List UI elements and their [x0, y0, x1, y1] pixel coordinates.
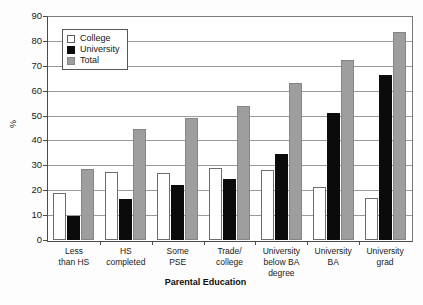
x-tick-label-line: completed — [100, 257, 152, 268]
bar-university — [67, 216, 80, 240]
x-tick-label-line: than HS — [48, 257, 100, 268]
legend-swatch-college — [67, 35, 75, 43]
x-tick-label: Lessthan HS — [48, 246, 100, 279]
x-tick-label-line: Trade/ — [204, 246, 256, 257]
x-tick-label-line: HS — [100, 246, 152, 257]
bar-group — [204, 17, 256, 240]
bar-university — [223, 179, 236, 240]
x-tick-label-line: University — [255, 246, 307, 257]
bar-college — [261, 170, 274, 240]
legend-item: University — [67, 44, 120, 55]
y-tick-label: 90 — [8, 11, 42, 21]
bar-total — [81, 169, 94, 240]
legend-label: College — [80, 33, 111, 44]
x-axis-title: Parental Education — [0, 277, 411, 287]
bar-total — [237, 106, 250, 240]
bar-group — [152, 17, 204, 240]
x-tick-label: Trade/college — [204, 246, 256, 279]
bar-total — [393, 32, 406, 240]
bar-college — [365, 198, 378, 240]
bar-total — [133, 129, 146, 240]
bar-university — [327, 113, 340, 240]
x-tick-mark — [152, 241, 153, 245]
x-tick-label: Universitybelow BA degree — [255, 246, 307, 279]
chart-legend: CollegeUniversityTotal — [62, 29, 128, 70]
y-tick-label: 70 — [8, 61, 42, 71]
bar-university — [379, 75, 392, 241]
legend-item: College — [67, 33, 120, 44]
x-tick-mark — [100, 241, 101, 245]
bar-university — [275, 154, 288, 240]
bar-group — [255, 17, 307, 240]
bar-group — [307, 17, 359, 240]
bar-total — [289, 83, 302, 240]
x-tick-label-line: University — [307, 246, 359, 257]
x-tick-label-line: BA — [307, 257, 359, 268]
bar-college — [209, 168, 222, 240]
x-tick-mark — [307, 241, 308, 245]
legend-item: Total — [67, 55, 120, 66]
x-tick-label-line: college — [204, 257, 256, 268]
bar-chart: % 9080706050403020100 Lessthan HSHScompl… — [0, 0, 423, 305]
x-tick-label: UniversityBA — [307, 246, 359, 279]
bar-total — [185, 118, 198, 240]
y-tick-label: 50 — [8, 111, 42, 121]
legend-swatch-total — [67, 57, 75, 65]
x-tick-label-line: Less — [48, 246, 100, 257]
bar-group — [359, 17, 411, 240]
x-tick-label: Universitygrad — [359, 246, 411, 279]
x-tick-label: SomePSE — [152, 246, 204, 279]
y-tick-label: 60 — [8, 86, 42, 96]
legend-label: University — [80, 44, 120, 55]
bar-college — [157, 173, 170, 240]
y-tick-label: 80 — [8, 36, 42, 46]
bar-college — [313, 187, 326, 241]
x-tick-label-line: University — [359, 246, 411, 257]
y-tick-label: 30 — [8, 161, 42, 171]
y-tick-label: 10 — [8, 210, 42, 220]
x-axis-labels: Lessthan HSHScompletedSomePSETrade/colle… — [48, 246, 411, 279]
bar-university — [171, 185, 184, 240]
legend-label: Total — [80, 55, 99, 66]
y-axis-title: % — [8, 120, 18, 128]
legend-swatch-university — [67, 46, 75, 54]
bar-university — [119, 199, 132, 240]
x-tick-label: HScompleted — [100, 246, 152, 279]
x-tick-label-line: below BA degree — [255, 257, 307, 279]
bar-college — [53, 193, 66, 240]
x-tick-mark — [255, 241, 256, 245]
x-tick-mark — [359, 241, 360, 245]
bar-total — [341, 60, 354, 240]
y-tick-label: 40 — [8, 136, 42, 146]
x-tick-label-line: grad — [359, 257, 411, 268]
y-tick-label: 20 — [8, 185, 42, 195]
y-tick-label: 0 — [8, 235, 42, 245]
x-tick-mark — [204, 241, 205, 245]
x-tick-label-line: Some — [152, 246, 204, 257]
x-tick-label-line: PSE — [152, 257, 204, 268]
bar-college — [105, 172, 118, 240]
